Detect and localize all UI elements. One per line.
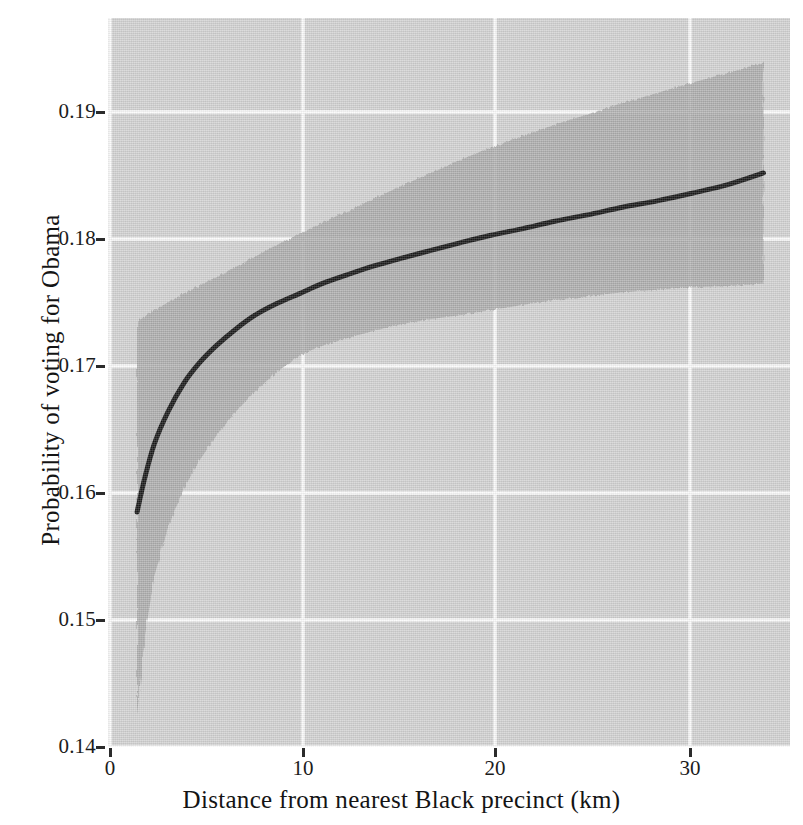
y-tick-label-0.15: 0.15	[22, 609, 96, 630]
x-tick-label-30: 30	[660, 758, 720, 779]
x-tick-label-10: 10	[273, 758, 333, 779]
y-tick-label-0.18: 0.18	[22, 228, 96, 249]
y-tick-label-0.19: 0.19	[22, 101, 96, 122]
x-tick-label-0: 0	[80, 758, 140, 779]
y-tick-mark	[96, 238, 105, 241]
plot-panel	[108, 18, 790, 747]
y-tick-label-0.17: 0.17	[22, 355, 96, 376]
y-tick-mark	[96, 746, 105, 749]
y-tick-mark	[96, 619, 105, 622]
y-tick-mark	[96, 111, 105, 114]
y-tick-mark	[96, 365, 105, 368]
y-tick-mark	[96, 492, 105, 495]
plot-svg	[108, 18, 790, 747]
x-tick-label-20: 20	[465, 758, 525, 779]
grain-overlay	[108, 18, 790, 747]
x-axis-title: Distance from nearest Black precinct (km…	[0, 786, 803, 814]
figure: 0.19 0.18 0.17 0.16 0.15 0.14 0 10 20 30…	[0, 0, 803, 825]
y-tick-label-0.16: 0.16	[22, 482, 96, 503]
y-axis-ticks: 0.19 0.18 0.17 0.16 0.15 0.14	[8, 0, 96, 825]
y-tick-label-0.14: 0.14	[22, 736, 96, 757]
